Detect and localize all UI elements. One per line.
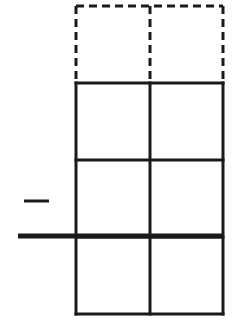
dashed-top-row: [76, 6, 223, 83]
grid-diagram: [0, 0, 249, 330]
solid-grid-rows: [76, 83, 223, 314]
